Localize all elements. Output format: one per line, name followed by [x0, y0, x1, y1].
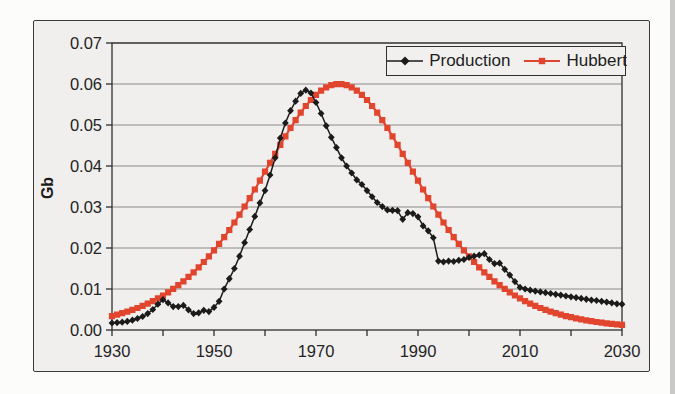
x-tick-label: 2030	[604, 342, 641, 360]
legend-label-hubbert: Hubbert	[566, 51, 626, 71]
legend-item-hubbert: Hubbert	[522, 51, 626, 71]
y-tick-label: 0.02	[70, 239, 102, 257]
x-tick-label: 2010	[502, 342, 539, 360]
legend: Production Hubbert	[386, 46, 626, 76]
legend-item-production: Production	[385, 51, 510, 71]
x-tick-label: 1930	[94, 342, 131, 360]
y-tick-label: 0.00	[70, 321, 102, 339]
y-tick-label: 0.01	[70, 280, 102, 298]
plot-border	[112, 43, 622, 330]
y-tick-label: 0.04	[70, 157, 102, 175]
production-diamond-marker-icon	[385, 55, 425, 67]
scanned-figure: 0.000.010.020.030.040.050.060.0719301950…	[0, 0, 675, 394]
y-tick-label: 0.05	[70, 116, 102, 134]
x-tick-label: 1970	[298, 342, 335, 360]
scan-page-edge	[670, 0, 675, 394]
y-tick-label: 0.06	[70, 75, 102, 93]
hubbert-square-marker-icon	[522, 55, 562, 67]
y-tick-label: 0.07	[70, 34, 102, 52]
x-tick-label: 1950	[196, 342, 233, 360]
y-tick-label: 0.03	[70, 198, 102, 216]
x-tick-label: 1990	[400, 342, 437, 360]
y-axis-title: Gb	[38, 174, 58, 202]
hubbert-series-markers	[109, 81, 625, 328]
legend-label-production: Production	[429, 51, 510, 71]
